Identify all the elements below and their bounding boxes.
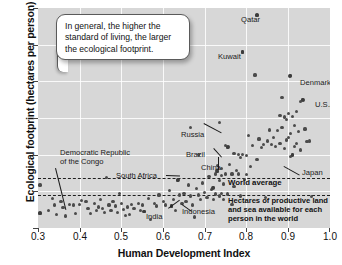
data-point [64,214,67,217]
data-point-japan [291,153,295,157]
x-tickmark-1.0 [329,228,330,232]
data-point [116,211,119,214]
x-tickmark-0.6 [163,228,164,232]
data-point-u-s-a [301,98,305,102]
data-point [278,142,281,145]
data-point [230,172,233,175]
data-point-russia [226,145,230,149]
data-point [237,172,240,175]
data-point [274,145,277,148]
data-point [178,193,181,196]
data-point [114,204,117,207]
data-point [262,143,265,146]
data-point [130,203,133,206]
leader-line-russia [204,123,222,133]
x-tickmark-0.8 [246,228,247,232]
data-point [195,187,198,190]
data-point [297,130,300,133]
data-point [249,165,252,168]
data-point [124,214,127,217]
data-point [84,200,87,203]
data-point [128,213,131,216]
data-point [38,183,41,186]
data-point [289,132,292,135]
data-point [157,193,160,196]
data-point [168,189,171,192]
data-point [293,145,296,148]
data-point-denmark [288,74,292,78]
data-point [276,129,279,132]
data-point [214,192,217,195]
x-tick-0.3: 0.3 [18,231,58,242]
data-point [218,194,221,197]
data-point [197,193,200,196]
data-point [201,181,204,184]
data-point [47,209,50,212]
leader-line-japan [284,166,300,176]
data-point [247,134,250,137]
gridline-h-8 [38,81,330,82]
x-tickmark-0.7 [205,228,206,232]
data-point [222,182,225,185]
data-point [132,207,135,210]
data-point [291,115,294,118]
label-japan: Japan [302,168,323,177]
data-point [137,202,140,205]
data-point [141,203,144,206]
data-point [99,198,102,201]
data-point [293,124,296,127]
data-point [86,207,89,210]
x-axis-label: Human Development Index [38,247,330,259]
x-tickmark-0.3 [38,228,39,232]
data-point [278,114,281,117]
data-point [280,126,283,129]
x-tick-0.4: 0.4 [60,231,100,242]
data-point [239,156,242,159]
data-point [139,209,142,212]
data-point [105,176,108,179]
data-point [155,204,158,207]
data-point [51,197,54,200]
data-point [199,198,202,201]
data-point [189,194,192,197]
label-china: China [201,163,221,172]
data-point [97,205,100,208]
data-point [295,110,298,113]
data-point [212,198,215,201]
data-point [72,203,75,206]
x-tickmark-0.4 [80,228,81,232]
data-point [189,126,192,129]
x-tick-0.7: 0.7 [185,231,225,242]
data-point-kuwait [241,50,245,54]
data-point [257,137,260,140]
data-point [68,203,71,206]
data-point [285,138,288,141]
data-point [111,200,114,203]
data-point [287,136,290,139]
x-tick-1.0: 1.0 [310,231,342,242]
data-point [232,152,235,155]
label-usa: U.S.A. [315,100,330,109]
data-point [107,203,110,206]
data-point [93,202,96,205]
data-point [268,128,271,131]
data-point [53,203,56,206]
data-point [80,199,83,202]
data-point [109,209,112,212]
y-axis-label: Ecological footprint (hectares per perso… [24,0,36,205]
data-point [205,196,208,199]
data-point [103,211,106,214]
data-point [280,96,283,99]
data-point [245,173,248,176]
data-point [245,154,248,157]
data-point [295,142,298,145]
data-point [207,175,210,178]
data-point [172,198,175,201]
leader-line-south-africa [166,175,180,176]
data-point [228,163,231,166]
data-point [266,139,269,142]
data-point [255,158,258,161]
data-point [272,136,275,139]
data-point [95,209,98,212]
x-tick-0.5: 0.5 [101,231,141,242]
